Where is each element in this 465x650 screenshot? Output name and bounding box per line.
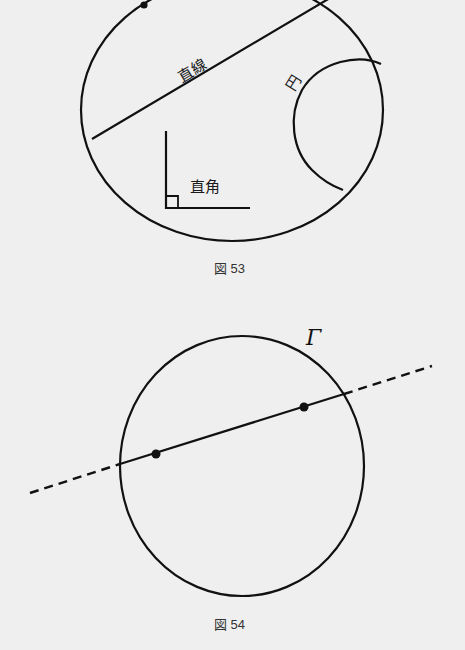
fig54-circle-gamma (120, 336, 364, 596)
fig54-caption: 図 54 (214, 617, 245, 632)
fig53-line-label: 直線 (175, 56, 210, 87)
diagram-canvas: 直線 円 直角 図 53 Γ 図 54 (0, 0, 465, 650)
fig53-right-angle (166, 131, 250, 208)
fig53-inner-arc (294, 60, 381, 190)
fig53-right-angle-label: 直角 (190, 178, 220, 196)
fig53-outer-circle (81, 0, 383, 241)
figure-53: 直線 円 直角 図 53 (81, 0, 383, 276)
fig53-caption: 図 53 (214, 261, 245, 276)
fig54-gamma-label: Γ (305, 325, 322, 350)
fig53-point (140, 1, 147, 8)
fig54-dashed-line-right (344, 366, 432, 394)
figure-54: Γ 図 54 (30, 325, 432, 632)
fig54-dashed-line-left (30, 464, 120, 493)
fig54-point-left (152, 450, 161, 459)
fig54-point-right (300, 403, 309, 412)
